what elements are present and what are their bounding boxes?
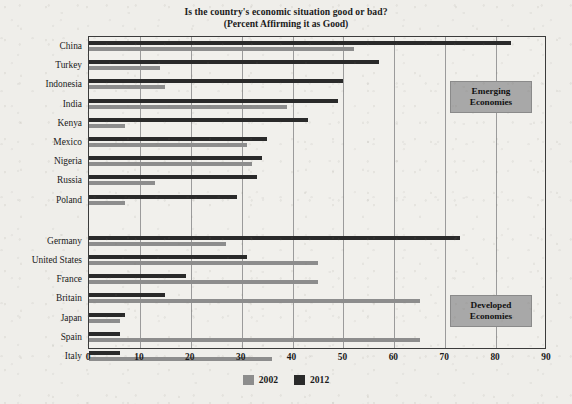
category-label-japan: Japan	[0, 313, 82, 323]
bar-2002-turkey	[89, 66, 160, 70]
emerging-economies-label-line2: Economies	[470, 97, 512, 108]
developed-economies-label-line2: Economies	[470, 311, 512, 322]
legend-swatch-2002	[243, 375, 254, 385]
category-label-russia: Russia	[0, 175, 82, 185]
developed-economies-label-line1: Developed	[471, 300, 512, 311]
bar-2002-germany	[89, 242, 226, 246]
bar-2012-indonesia	[89, 79, 343, 83]
x-tick-label-20: 20	[185, 352, 194, 362]
category-label-india: India	[0, 99, 82, 109]
bar-2012-spain	[89, 332, 120, 336]
bar-2012-united-states	[89, 255, 247, 259]
x-tick-label-80: 80	[490, 352, 499, 362]
bar-2002-japan	[89, 319, 120, 323]
legend-label-2002: 2002	[259, 374, 278, 385]
bar-2002-kenya	[89, 124, 125, 128]
category-label-united-states: United States	[0, 255, 82, 265]
bar-2012-turkey	[89, 60, 379, 64]
bar-2012-france	[89, 274, 186, 278]
bar-2012-china	[89, 41, 511, 45]
bar-2002-mexico	[89, 143, 247, 147]
developed-economies-box: Developed Economies	[450, 295, 531, 327]
bar-2012-india	[89, 99, 338, 103]
bar-2002-spain	[89, 338, 420, 342]
x-tick-label-40: 40	[287, 352, 296, 362]
bar-2012-poland	[89, 195, 237, 199]
bar-2012-kenya	[89, 118, 308, 122]
bar-2002-france	[89, 280, 318, 284]
x-tick-label-30: 30	[236, 352, 245, 362]
chart-title: Is the country's economic situation good…	[0, 6, 572, 18]
x-tick-label-60: 60	[389, 352, 398, 362]
category-label-britain: Britain	[0, 293, 82, 303]
x-axis-tick-labels: 0102030405060708090	[0, 352, 572, 366]
x-tick-label-10: 10	[134, 352, 143, 362]
bar-2002-russia	[89, 181, 155, 185]
legend-item-2002: 2002	[243, 374, 278, 385]
bar-2012-mexico	[89, 137, 267, 141]
category-label-kenya: Kenya	[0, 118, 82, 128]
bar-2002-poland	[89, 201, 125, 205]
category-label-indonesia: Indonesia	[0, 79, 82, 89]
bar-2002-china	[89, 47, 354, 51]
bar-2002-nigeria	[89, 162, 252, 166]
plot-area: Emerging Economies Developed Economies	[88, 36, 546, 349]
legend-label-2012: 2012	[310, 374, 329, 385]
category-label-poland: Poland	[0, 195, 82, 205]
category-labels: ChinaTurkeyIndonesiaIndiaKenyaMexicoNige…	[0, 36, 88, 349]
bar-2002-united-states	[89, 261, 318, 265]
category-label-china: China	[0, 41, 82, 51]
category-label-spain: Spain	[0, 332, 82, 342]
x-tick-label-70: 70	[440, 352, 449, 362]
chart-subtitle: (Percent Affirming it as Good)	[0, 18, 572, 30]
bar-2002-indonesia	[89, 85, 165, 89]
category-label-nigeria: Nigeria	[0, 156, 82, 166]
bar-2012-nigeria	[89, 156, 262, 160]
bar-2012-japan	[89, 313, 125, 317]
x-tick-label-90: 90	[541, 352, 550, 362]
category-label-turkey: Turkey	[0, 60, 82, 70]
x-tick-label-50: 50	[338, 352, 347, 362]
legend-item-2012: 2012	[294, 374, 329, 385]
emerging-economies-label-line1: Emerging	[472, 86, 511, 97]
x-tick-label-0: 0	[86, 352, 91, 362]
bar-2002-britain	[89, 299, 420, 303]
category-label-france: France	[0, 274, 82, 284]
category-label-mexico: Mexico	[0, 137, 82, 147]
legend-swatch-2012	[294, 375, 305, 385]
chart-legend: 2002 2012	[0, 374, 572, 385]
bar-2012-britain	[89, 293, 165, 297]
bar-2012-germany	[89, 236, 460, 240]
emerging-economies-box: Emerging Economies	[450, 81, 531, 113]
category-label-germany: Germany	[0, 236, 82, 246]
bar-2002-india	[89, 105, 287, 109]
bar-2012-russia	[89, 175, 257, 179]
